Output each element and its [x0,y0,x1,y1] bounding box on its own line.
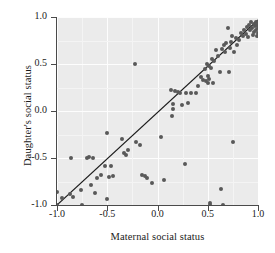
data-point [184,91,188,95]
data-point [178,91,182,95]
y-axis-tick-label: -0.5 [17,151,47,162]
data-point [186,101,190,105]
data-point [232,50,236,54]
data-point [183,162,187,166]
x-axis-tick-label: -0.5 [87,208,127,219]
x-axis-title: Maternal social status [57,231,258,242]
y-axis-tick [51,64,57,65]
data-point [209,66,213,70]
data-point [159,135,163,139]
data-point [103,164,107,168]
data-point [189,91,193,95]
data-point [219,187,223,191]
y-axis-tick-label: 0.5 [17,57,47,68]
data-point [109,164,113,168]
x-axis-tick-label: -1.0 [37,208,77,219]
data-point [105,131,109,135]
y-axis-tick [51,111,57,112]
y-axis-title: Daughter's social status [22,26,33,206]
data-point [211,81,215,85]
y-axis-tick [51,158,57,159]
data-point [256,26,258,30]
y-axis-tick-label: 1.0 [17,10,47,21]
data-point [214,48,218,52]
data-point [162,178,166,182]
data-point [194,91,198,95]
data-point [206,81,210,85]
x-axis-tick-label: 0.0 [138,208,178,219]
data-point [170,114,174,118]
data-point [227,70,231,74]
data-point [93,191,97,195]
data-point [246,35,250,39]
x-axis-tick-label: 1.0 [238,208,275,219]
data-point [256,20,258,24]
data-point [171,107,175,111]
y-axis-tick [51,17,57,18]
data-point [126,148,130,152]
regression-line [57,17,258,205]
x-axis-tick-label: 0.5 [188,208,228,219]
data-point [203,67,207,71]
data-point [207,77,211,81]
data-point [169,88,173,92]
data-point [256,31,258,35]
scatter-plot-figure: Daughter's social status Maternal social… [0,0,275,253]
data-point [196,84,200,88]
data-point [237,38,241,42]
data-point [231,140,235,144]
data-point [212,59,216,63]
data-point [228,46,232,50]
data-point [223,50,227,54]
plot-panel [57,17,258,205]
y-axis-tick-label: 0.0 [17,104,47,115]
